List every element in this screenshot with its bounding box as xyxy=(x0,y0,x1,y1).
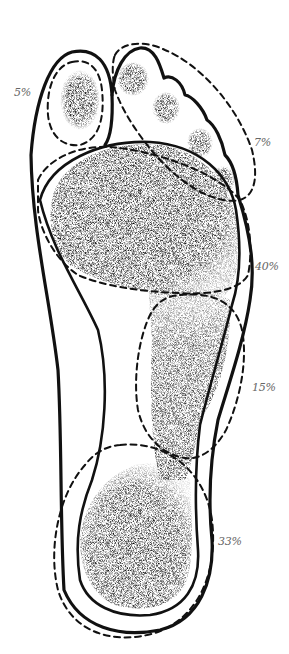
label-heel-percent: 33% xyxy=(218,535,242,548)
toe4-pressure-spot xyxy=(187,128,213,158)
label-hallux-percent: 5% xyxy=(14,86,31,99)
label-forefoot-percent: 40% xyxy=(255,260,279,273)
foot-pressure-diagram xyxy=(0,0,289,654)
label-lesser-toes-percent: 7% xyxy=(254,136,271,149)
forefoot-pressure-area xyxy=(51,144,239,298)
toe2-pressure-spot xyxy=(117,62,149,96)
toe3-pressure-spot xyxy=(152,92,180,124)
toe-divider-line xyxy=(105,95,112,145)
heel-pressure-area xyxy=(80,463,192,608)
hallux-pressure-spot xyxy=(60,70,100,130)
label-midfoot-percent: 15% xyxy=(252,381,276,394)
